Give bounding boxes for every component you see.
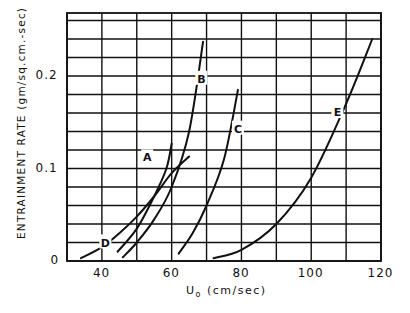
curve-label-c: C [234,123,242,136]
data-curves [81,39,372,258]
x-tick-label: 120 [368,266,394,280]
y-tick-label: 0.1 [36,161,58,175]
curve-label-b: B [197,73,205,86]
x-axis-symbol: U [186,284,196,297]
curve-e [214,39,373,258]
x-tick-label: 100 [298,266,324,280]
curve-c [179,90,238,254]
chart-svg: ABCDE [0,0,410,313]
curve-label-a: A [143,151,152,164]
x-axis-label: Uo (cm/sec) [186,284,267,299]
curve-labels: ABCDE [99,71,343,250]
x-tick-label: 60 [163,266,180,280]
x-axis-unit: (cm/sec) [207,284,267,297]
y-axis-label: ENTRAINMENT RATE (gm/sq.cm.-sec) [15,29,27,239]
y-tick-label: 0.2 [36,68,58,82]
curve-label-d: D [101,237,110,250]
x-tick-label: 40 [93,266,110,280]
grid-lines [67,13,381,261]
curve-label-e: E [334,106,342,119]
y-tick-label: 0 [51,253,60,267]
x-tick-label: 80 [232,266,249,280]
x-axis-subscript: o [196,290,202,299]
